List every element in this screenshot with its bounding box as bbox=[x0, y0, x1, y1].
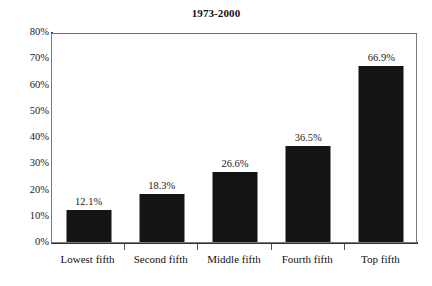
bar bbox=[139, 194, 184, 242]
chart-title: 1973-2000 bbox=[0, 7, 432, 19]
x-axis-tick-mark bbox=[344, 244, 345, 250]
x-axis-label: Top fifth bbox=[344, 253, 417, 265]
x-axis-tick-mark bbox=[271, 244, 272, 250]
bar bbox=[212, 172, 257, 242]
bar-value-label: 12.1% bbox=[75, 196, 102, 207]
x-axis-tick-mark bbox=[197, 244, 198, 250]
bar-group: 12.1% bbox=[52, 34, 125, 242]
bar-value-label: 18.3% bbox=[148, 180, 175, 191]
y-axis-tick-label: 30% bbox=[30, 157, 49, 168]
bar-group: 18.3% bbox=[125, 34, 198, 242]
y-axis-tick-label: 10% bbox=[30, 210, 49, 221]
bar-group: 66.9% bbox=[345, 34, 418, 242]
x-axis-label: Lowest fifth bbox=[51, 253, 124, 265]
x-axis-tick-mark bbox=[124, 244, 125, 250]
bar-value-label: 26.6% bbox=[221, 158, 248, 169]
y-axis-tick-label: 20% bbox=[30, 184, 49, 195]
y-axis-tick-label: 80% bbox=[30, 26, 49, 37]
y-axis-tick-label: 40% bbox=[30, 131, 49, 142]
y-axis-tick-label: 0% bbox=[35, 236, 49, 247]
y-axis-tick-label: 50% bbox=[30, 105, 49, 116]
y-axis-tick-label: 70% bbox=[30, 52, 49, 63]
bar-group: 26.6% bbox=[198, 34, 271, 242]
bar-group: 36.5% bbox=[272, 34, 345, 242]
y-axis-tick-mark bbox=[52, 243, 58, 244]
plot-area: 12.1%18.3%26.6%36.5%66.9% bbox=[51, 33, 417, 243]
x-axis-label: Fourth fifth bbox=[271, 253, 344, 265]
y-axis-tick-label: 60% bbox=[30, 79, 49, 90]
bar-chart: 1973-2000 0%10%20%30%40%50%60%70%80% 12.… bbox=[0, 0, 432, 286]
bar bbox=[286, 146, 331, 242]
bar bbox=[359, 66, 404, 242]
bar-value-label: 66.9% bbox=[368, 52, 395, 63]
bar bbox=[66, 210, 111, 242]
bar-value-label: 36.5% bbox=[295, 132, 322, 143]
x-axis-label: Middle fifth bbox=[197, 253, 270, 265]
x-axis-label: Second fifth bbox=[124, 253, 197, 265]
